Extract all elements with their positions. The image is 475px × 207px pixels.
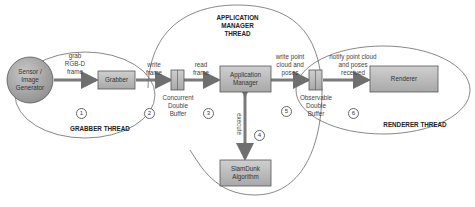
renderer-thread-label: RENDERER THREAD (375, 121, 455, 129)
observable-buffer-label: Observable Double Buffer (291, 94, 341, 118)
grabber-node: Grabber (98, 71, 135, 89)
step-2-badge: 2 (144, 108, 155, 119)
app-thread-label: APPLICATION MANAGER THREAD (200, 14, 275, 38)
concurrent-buffer-label: Concurrent Double Buffer (153, 94, 203, 118)
grabber-thread-label: GRABBER THREAD (60, 125, 140, 133)
sensor-node: Sensor / Image Generator (7, 60, 53, 100)
edge-6-label: notify point cloud and poses received (318, 53, 388, 77)
app-manager-node: Application Manager (220, 66, 271, 92)
edge-1-label: grab RGB-D frame (60, 52, 90, 76)
step-6-badge: 6 (348, 108, 359, 119)
step-1-badge: 1 (76, 108, 87, 119)
edge-5-label: write point cloud and poses (268, 53, 312, 77)
edge-3-label: read frame (186, 61, 216, 77)
edge-4-label: execute (235, 109, 243, 139)
step-3-badge: 3 (203, 108, 214, 119)
step-4-badge: 4 (254, 130, 265, 141)
slamdunk-node: SlamDunk Algorithm (220, 160, 271, 186)
edge-2-label: write frame (140, 61, 168, 77)
step-5-badge: 5 (281, 106, 292, 117)
